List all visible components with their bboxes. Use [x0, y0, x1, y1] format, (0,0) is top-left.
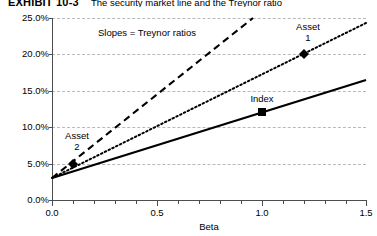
asset2-treynor-line: [52, 18, 253, 178]
asset1-label-line1: Asset: [285, 22, 331, 33]
asset1-label: Asset 1: [285, 22, 331, 43]
asset1-treynor-line: [52, 23, 366, 178]
security-market-line: [52, 80, 366, 178]
slopes-annotation: Slopes = Treynor ratios: [98, 28, 196, 39]
asset2-label: Asset 2: [54, 131, 100, 152]
asset2-marker: [68, 159, 78, 169]
asset1-marker: [299, 49, 309, 59]
exhibit-figure: EXHIBIT 10-3The security market line and…: [0, 0, 377, 236]
index-marker: [258, 108, 266, 116]
index-label: Index: [239, 94, 285, 105]
asset2-label-line2: 2: [54, 142, 100, 153]
asset2-label-line1: Asset: [54, 131, 100, 142]
asset1-label-line2: 1: [285, 33, 331, 44]
